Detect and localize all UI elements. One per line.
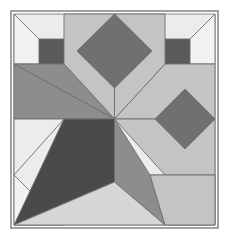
- quilt-block-illustration: [0, 0, 228, 239]
- corner-square-top-left: [39, 39, 64, 64]
- corner-square-top-right: [165, 39, 190, 64]
- patch-layer: [14, 14, 215, 225]
- quilt-pattern-canvas: [0, 0, 228, 239]
